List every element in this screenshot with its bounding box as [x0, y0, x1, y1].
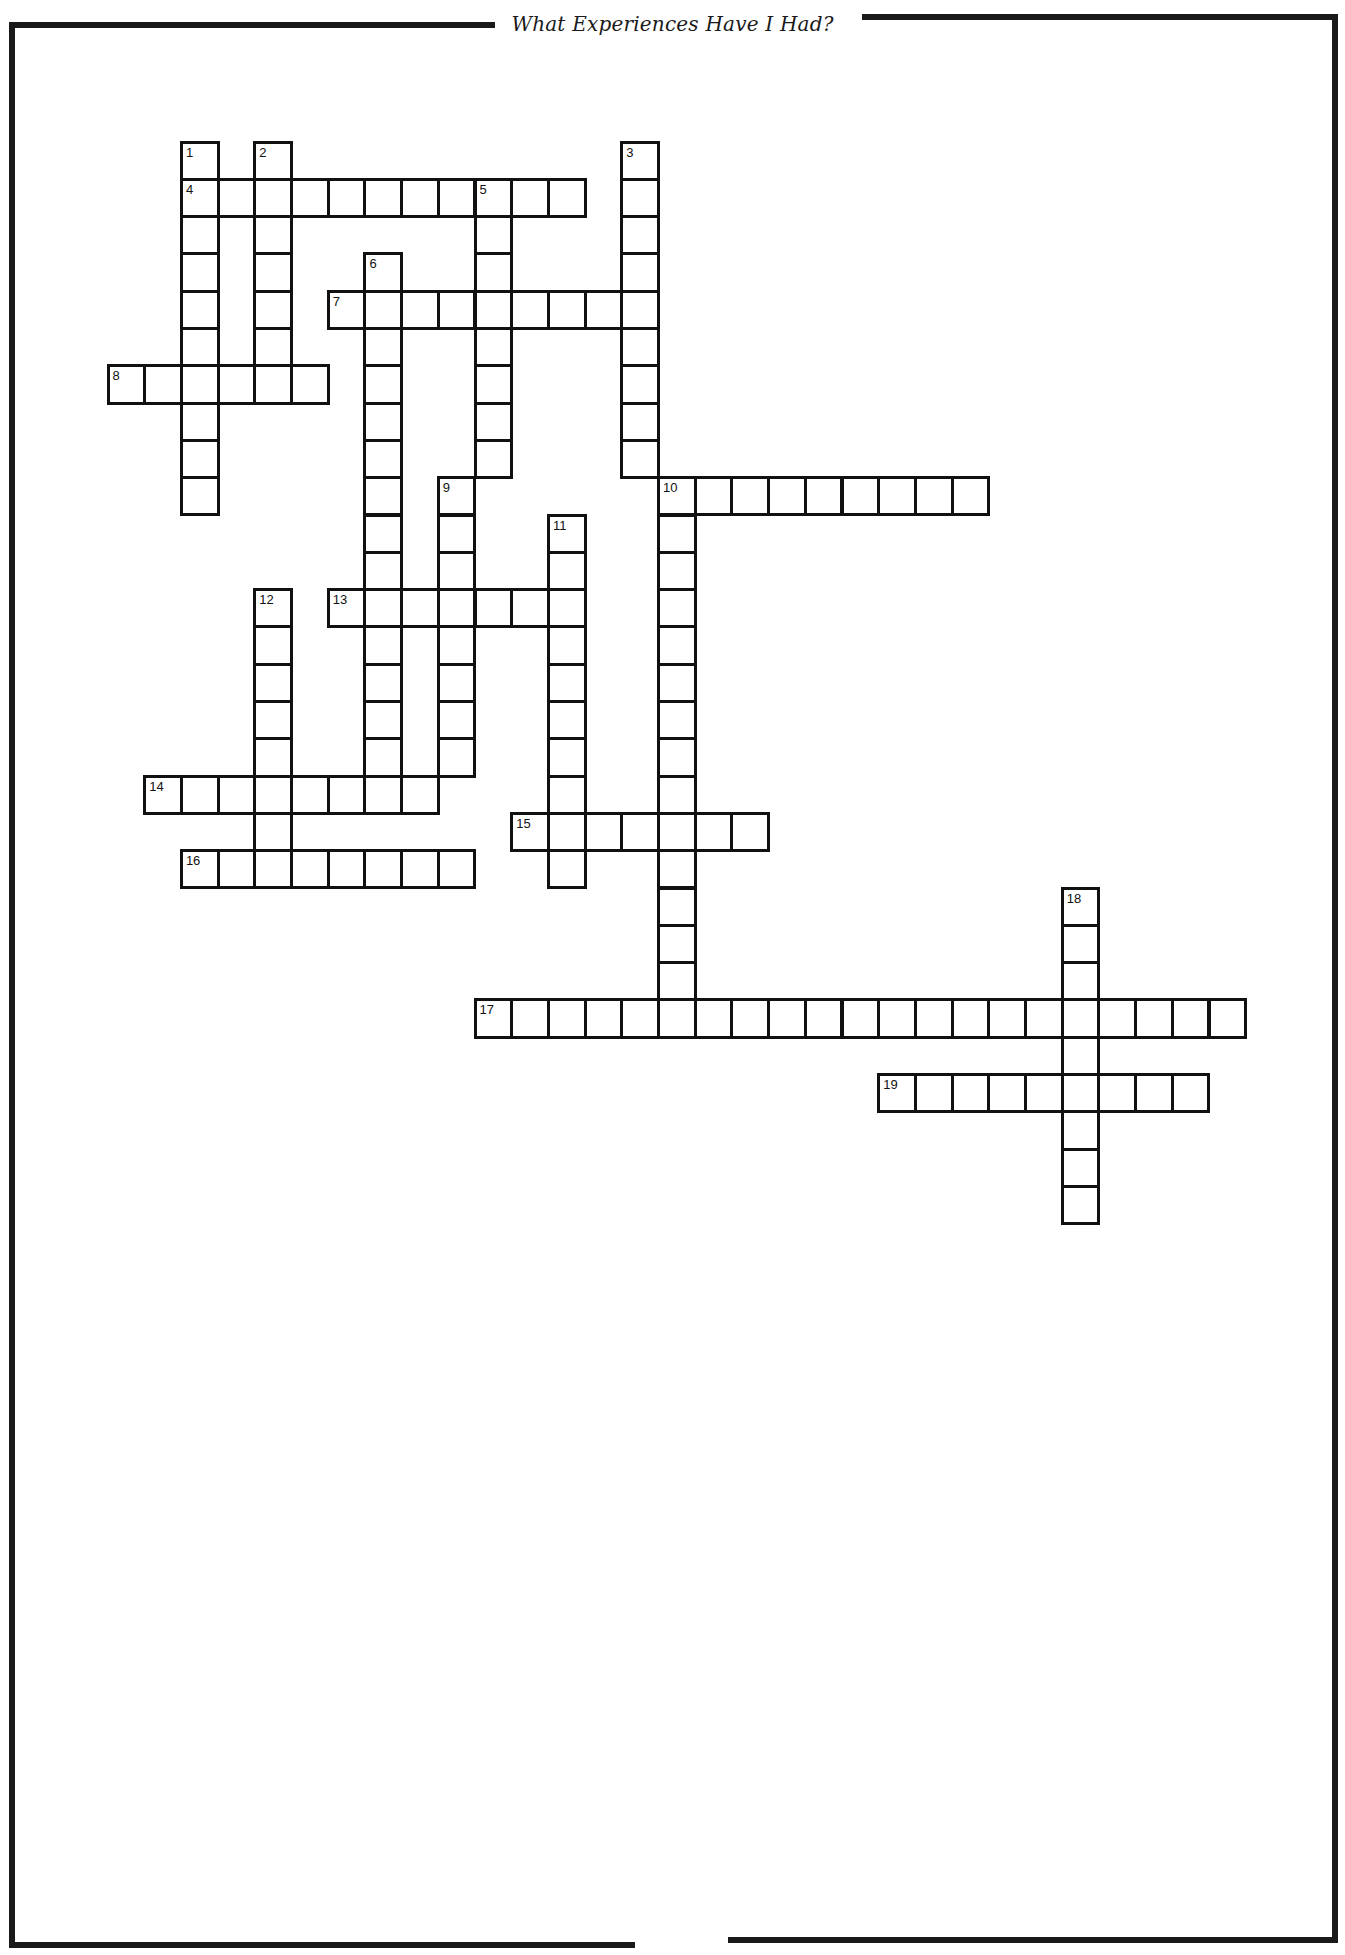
crossword-cell[interactable]	[180, 252, 220, 292]
crossword-cell[interactable]	[1061, 998, 1101, 1038]
crossword-cell[interactable]	[253, 290, 293, 330]
crossword-cell[interactable]	[363, 364, 403, 404]
crossword-cell[interactable]: 6	[363, 252, 403, 292]
crossword-cell[interactable]	[363, 551, 403, 591]
crossword-cell[interactable]	[951, 476, 991, 516]
crossword-cell[interactable]	[620, 364, 660, 404]
crossword-cell[interactable]	[1061, 1036, 1101, 1076]
crossword-cell[interactable]	[363, 439, 403, 479]
crossword-cell[interactable]	[547, 551, 587, 591]
crossword-cell[interactable]	[363, 327, 403, 367]
crossword-cell[interactable]	[253, 364, 293, 404]
crossword-cell[interactable]: 16	[180, 849, 220, 889]
crossword-cell[interactable]: 19	[877, 1073, 917, 1113]
crossword-cell[interactable]	[474, 327, 514, 367]
crossword-cell[interactable]	[657, 700, 697, 740]
crossword-cell[interactable]	[1061, 961, 1101, 1001]
crossword-cell[interactable]	[1171, 1073, 1211, 1113]
crossword-cell[interactable]: 8	[107, 364, 147, 404]
crossword-cell[interactable]	[767, 998, 807, 1038]
crossword-cell[interactable]	[547, 812, 587, 852]
crossword-cell[interactable]	[363, 663, 403, 703]
crossword-cell[interactable]: 12	[253, 588, 293, 628]
crossword-cell[interactable]	[180, 439, 220, 479]
crossword-cell[interactable]	[951, 1073, 991, 1113]
crossword-cell[interactable]: 1	[180, 141, 220, 181]
crossword-cell[interactable]	[327, 775, 367, 815]
crossword-cell[interactable]	[547, 737, 587, 777]
crossword-cell[interactable]: 18	[1061, 887, 1101, 927]
crossword-cell[interactable]	[363, 588, 403, 628]
crossword-cell[interactable]	[620, 402, 660, 442]
crossword-cell[interactable]	[253, 663, 293, 703]
crossword-cell[interactable]	[437, 625, 477, 665]
crossword-cell[interactable]	[620, 252, 660, 292]
crossword-cell[interactable]	[180, 476, 220, 516]
crossword-cell[interactable]	[877, 476, 917, 516]
crossword-cell[interactable]	[620, 215, 660, 255]
crossword-cell[interactable]	[474, 402, 514, 442]
crossword-cell[interactable]	[363, 849, 403, 889]
crossword-cell[interactable]	[363, 775, 403, 815]
crossword-cell[interactable]	[547, 849, 587, 889]
crossword-cell[interactable]	[730, 998, 770, 1038]
crossword-cell[interactable]	[547, 998, 587, 1038]
crossword-cell[interactable]	[1024, 998, 1064, 1038]
crossword-cell[interactable]	[730, 812, 770, 852]
crossword-cell[interactable]	[657, 849, 697, 889]
crossword-cell[interactable]	[1061, 1148, 1101, 1188]
crossword-cell[interactable]	[327, 849, 367, 889]
crossword-cell[interactable]	[547, 290, 587, 330]
crossword-cell[interactable]	[253, 812, 293, 852]
crossword-cell[interactable]	[657, 663, 697, 703]
crossword-cell[interactable]	[547, 700, 587, 740]
crossword-cell[interactable]	[1171, 998, 1211, 1038]
crossword-cell[interactable]	[253, 625, 293, 665]
crossword-cell[interactable]	[400, 849, 440, 889]
crossword-cell[interactable]	[217, 775, 257, 815]
crossword-cell[interactable]	[730, 476, 770, 516]
crossword-cell[interactable]: 17	[474, 998, 514, 1038]
crossword-cell[interactable]	[400, 290, 440, 330]
crossword-cell[interactable]	[657, 737, 697, 777]
crossword-cell[interactable]	[474, 364, 514, 404]
crossword-cell[interactable]: 10	[657, 476, 697, 516]
crossword-cell[interactable]: 4	[180, 178, 220, 218]
crossword-cell[interactable]	[510, 588, 550, 628]
crossword-cell[interactable]	[657, 998, 697, 1038]
crossword-cell[interactable]	[180, 402, 220, 442]
crossword-cell[interactable]	[584, 998, 624, 1038]
crossword-cell[interactable]	[180, 364, 220, 404]
crossword-cell[interactable]	[180, 290, 220, 330]
crossword-cell[interactable]	[180, 215, 220, 255]
crossword-cell[interactable]	[290, 178, 330, 218]
crossword-cell[interactable]	[620, 178, 660, 218]
crossword-cell[interactable]	[547, 178, 587, 218]
crossword-cell[interactable]	[657, 924, 697, 964]
crossword-cell[interactable]	[474, 252, 514, 292]
crossword-cell[interactable]	[657, 588, 697, 628]
crossword-cell[interactable]	[620, 998, 660, 1038]
crossword-cell[interactable]	[657, 775, 697, 815]
crossword-cell[interactable]: 2	[253, 141, 293, 181]
crossword-cell[interactable]	[620, 327, 660, 367]
crossword-cell[interactable]	[253, 327, 293, 367]
crossword-cell[interactable]: 15	[510, 812, 550, 852]
crossword-cell[interactable]	[1061, 1185, 1101, 1225]
crossword-cell[interactable]	[841, 476, 881, 516]
crossword-cell[interactable]	[437, 737, 477, 777]
crossword-cell[interactable]	[657, 625, 697, 665]
crossword-cell[interactable]	[400, 775, 440, 815]
crossword-cell[interactable]	[1134, 1073, 1174, 1113]
crossword-cell[interactable]	[510, 998, 550, 1038]
crossword-cell[interactable]	[914, 998, 954, 1038]
crossword-cell[interactable]	[1208, 998, 1248, 1038]
crossword-cell[interactable]	[290, 849, 330, 889]
crossword-cell[interactable]: 14	[143, 775, 183, 815]
crossword-cell[interactable]	[363, 737, 403, 777]
crossword-cell[interactable]	[657, 812, 697, 852]
crossword-cell[interactable]	[363, 178, 403, 218]
crossword-cell[interactable]	[694, 476, 734, 516]
crossword-cell[interactable]	[363, 625, 403, 665]
crossword-cell[interactable]: 11	[547, 514, 587, 554]
